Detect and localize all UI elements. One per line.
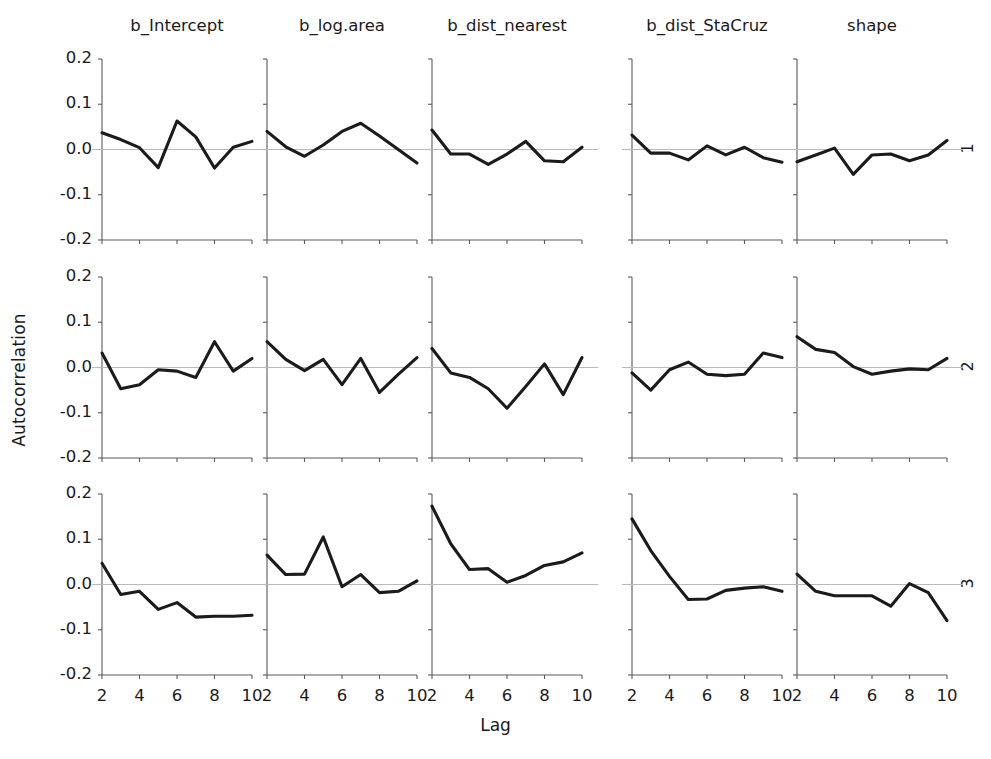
y-tick-label: 0.0: [30, 357, 92, 376]
row-label-3: 3: [962, 574, 972, 593]
acf-panel-b-log-area-row-1: [253, 53, 433, 258]
acf-panel-shape-row-1: [783, 53, 963, 258]
y-tick-label: 0.0: [30, 139, 92, 158]
acf-series-line: [797, 140, 947, 174]
column-title-b-dist-nearest: b_dist_nearest: [402, 16, 612, 35]
acf-panel-b-intercept-row-1: [88, 53, 268, 258]
acf-series-line: [632, 353, 782, 390]
acf-series-line: [632, 519, 782, 600]
x-axis-title: Lag: [0, 715, 991, 735]
acf-panel-b-intercept-row-3: [88, 488, 268, 693]
acf-series-line: [632, 135, 782, 162]
acf-panel-b-dist-nearest-row-2: [418, 271, 598, 476]
y-tick-label: 0.2: [30, 266, 92, 285]
y-tick-label: 0.0: [30, 574, 92, 593]
acf-panel-b-intercept-row-2: [88, 271, 268, 476]
y-tick-label: 0.1: [30, 311, 92, 330]
y-axis-title-text: Autocorrelation: [9, 313, 29, 447]
acf-panel-b-dist-nearest-row-1: [418, 53, 598, 258]
acf-panel-shape-row-2: [783, 271, 963, 476]
y-tick-label: -0.2: [30, 664, 92, 683]
y-tick-label: -0.1: [30, 619, 92, 638]
acf-panel-b-log-area-row-2: [253, 271, 433, 476]
acf-panel-shape-row-3: [783, 488, 963, 693]
acf-panel-b-dist-stacruz-row-1: [618, 53, 798, 258]
row-label-2: 2: [962, 357, 972, 376]
acf-series-line: [797, 337, 947, 375]
y-tick-label: 0.2: [30, 48, 92, 67]
acf-panel-b-log-area-row-3: [253, 488, 433, 693]
acf-series-line: [432, 348, 582, 408]
acf-series-line: [432, 130, 582, 164]
acf-series-line: [797, 574, 947, 621]
acf-panel-b-dist-nearest-row-3: [418, 488, 598, 693]
acf-panel-b-dist-stacruz-row-2: [618, 271, 798, 476]
row-label-1: 1: [962, 139, 972, 158]
y-axis-title: Autocorrelation: [4, 0, 34, 759]
y-tick-label: 0.2: [30, 483, 92, 502]
y-tick-label: -0.1: [30, 184, 92, 203]
y-tick-label: -0.1: [30, 402, 92, 421]
acf-series-line: [102, 121, 252, 168]
acf-panel-b-dist-stacruz-row-3: [618, 488, 798, 693]
acf-series-line: [432, 506, 582, 582]
y-tick-label: -0.2: [30, 229, 92, 248]
y-tick-label: -0.2: [30, 447, 92, 466]
acf-series-line: [102, 563, 252, 617]
acf-plot-figure: { "figure": { "ylabel": "Autocorrelation…: [0, 0, 991, 759]
acf-series-line: [267, 123, 417, 163]
y-tick-label: 0.1: [30, 528, 92, 547]
acf-series-line: [102, 342, 252, 389]
y-tick-label: 0.1: [30, 93, 92, 112]
column-title-shape: shape: [767, 16, 977, 35]
